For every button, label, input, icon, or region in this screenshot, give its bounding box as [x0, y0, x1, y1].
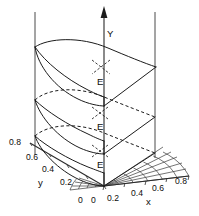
vertical-axis-arrow-icon: [101, 6, 108, 18]
y-axis-title: y: [38, 177, 43, 188]
y-tick-label-0-2: 0.2: [60, 177, 72, 187]
surface-top-front-rim: [35, 47, 104, 106]
grid-x-arc-6: [163, 152, 189, 176]
y-tick-label-0-6: 0.6: [26, 152, 38, 162]
x-tick-0: [103, 186, 104, 190]
x-tick-label-0-4: 0.4: [131, 188, 143, 198]
e-bottom-cross-icon-b: [92, 145, 108, 157]
x-tick-label-0-8: 0.8: [175, 176, 187, 186]
y-tick-label-0-4: 0.4: [42, 164, 54, 174]
grid-y-arc-3: [79, 181, 84, 189]
x-tick-label-0: 0: [91, 195, 96, 205]
base-grid-y: [70, 178, 104, 190]
annotation-e-middle: E: [92, 107, 108, 132]
surface-top: [35, 40, 156, 106]
y-tick-label-0: 0: [78, 195, 83, 205]
x-tick-label-0-6: 0.6: [152, 183, 164, 193]
plot-3d-surface: Y: [0, 0, 199, 216]
x-axis-title: x: [146, 196, 151, 207]
annotation-e-top: E: [92, 60, 110, 87]
surface-middle: [35, 90, 155, 154]
e-top-label: E: [97, 76, 103, 87]
figure-container: Y: [0, 0, 199, 216]
surface-middle-notch-right: [104, 117, 155, 154]
x-tick-label-0-2: 0.2: [107, 193, 119, 203]
e-middle-cross-icon-b: [92, 107, 108, 119]
y-tick-label-0-8: 0.8: [9, 137, 21, 147]
y-tick-0: [104, 186, 106, 189]
e-middle-label: E: [97, 121, 103, 132]
bounding-pillars: [35, 12, 155, 158]
vertical-axis-label: Y: [107, 28, 114, 39]
e-bottom-label: E: [97, 159, 103, 170]
annotation-e-bottom: E: [92, 145, 108, 170]
surface-top-notch-right: [104, 67, 156, 106]
